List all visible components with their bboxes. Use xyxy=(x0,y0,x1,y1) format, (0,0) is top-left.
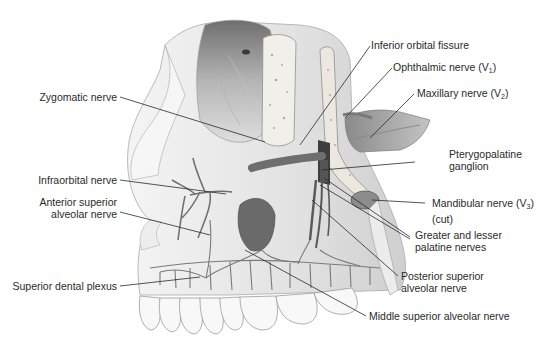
label-text-line2: alveolar nerve xyxy=(401,282,484,294)
label-text: Superior dental plexus xyxy=(13,280,117,292)
label-greater-lesser-palatine-nerves: Greater and lesser palatine nerves xyxy=(415,229,502,253)
label-text: Zygomatic nerve xyxy=(39,91,117,103)
label-ophthalmic-nerve: Ophthalmic nerve (V1) xyxy=(393,61,496,77)
label-close: ) xyxy=(505,87,509,99)
label-text: Inferior orbital fissure xyxy=(371,39,469,51)
label-middle-superior-alveolar-nerve: Middle superior alveolar nerve xyxy=(369,310,510,322)
label-pterygopalatine-ganglion: Pterygopalatine ganglion xyxy=(449,148,522,172)
label-text: Ophthalmic nerve (V xyxy=(393,61,489,73)
label-text-line1: Pterygopalatine xyxy=(449,148,522,160)
nerve-bundle-v1-v2 xyxy=(343,110,430,152)
label-text-line1: Anterior superior xyxy=(39,196,117,208)
label-text-line1: Mandibular nerve (V xyxy=(432,197,527,209)
label-text: Infraorbital nerve xyxy=(38,174,117,186)
label-mandibular-nerve: Mandibular nerve (V3) (cut) xyxy=(432,197,534,225)
label-close: ) xyxy=(493,61,497,73)
label-inferior-orbital-fissure: Inferior orbital fissure xyxy=(371,39,469,51)
label-text-line1: Posterior superior xyxy=(401,270,484,282)
label-anterior-superior-alveolar-nerve: Anterior superior alveolar nerve xyxy=(39,196,117,220)
label-text-line2: alveolar nerve xyxy=(39,208,117,220)
label-text: Maxillary nerve (V xyxy=(417,87,501,99)
label-text: Middle superior alveolar nerve xyxy=(369,310,510,322)
label-text-line1: Greater and lesser xyxy=(415,229,502,241)
anatomical-figure: Zygomatic nerve Infraorbital nerve Anter… xyxy=(0,0,547,358)
label-maxillary-nerve: Maxillary nerve (V2) xyxy=(417,87,508,103)
label-text-line2: palatine nerves xyxy=(415,241,502,253)
label-infraorbital-nerve: Infraorbital nerve xyxy=(38,174,117,186)
label-posterior-superior-alveolar-nerve: Posterior superior alveolar nerve xyxy=(401,270,484,294)
label-text-line2: (cut) xyxy=(432,213,534,225)
label-close: ) xyxy=(530,197,534,209)
label-zygomatic-nerve: Zygomatic nerve xyxy=(39,91,117,103)
label-superior-dental-plexus: Superior dental plexus xyxy=(13,280,117,292)
label-text-line2: ganglion xyxy=(449,160,522,172)
